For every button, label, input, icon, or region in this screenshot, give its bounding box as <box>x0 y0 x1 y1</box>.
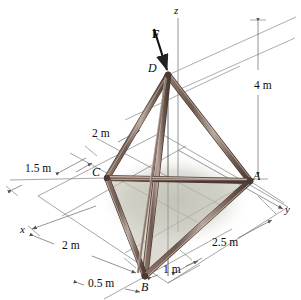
dimension-label-2m-lower: 2 m <box>62 240 80 252</box>
point-label-a: A <box>253 170 260 182</box>
dimension-label-2m-upper: 2 m <box>92 128 110 140</box>
axis-label-z: z <box>174 5 178 16</box>
dimension-label-1p5m: 1.5 m <box>25 163 51 175</box>
point-label-c: C <box>92 166 100 178</box>
point-label-b: B <box>141 281 148 293</box>
dimension-label-4m: 4 m <box>254 80 272 92</box>
point-label-d: D <box>148 62 157 74</box>
dimension-label-1m: 1 m <box>163 264 181 276</box>
dimension-label-0p5m: 0.5 m <box>88 278 114 290</box>
joint-b <box>142 273 148 279</box>
axis-label-y: y <box>285 204 290 215</box>
x-axis-line <box>32 206 96 229</box>
joint-c <box>104 175 110 181</box>
truss-figure: z y x D C A B F 4 m 2 m 1.5 m 2 m 2.5 m … <box>0 0 301 300</box>
joint-d <box>165 72 171 78</box>
axis-label-x: x <box>20 224 25 235</box>
force-label-f: F <box>152 28 160 41</box>
truss-svg <box>0 0 301 300</box>
dimension-label-2p5m: 2.5 m <box>212 237 238 249</box>
